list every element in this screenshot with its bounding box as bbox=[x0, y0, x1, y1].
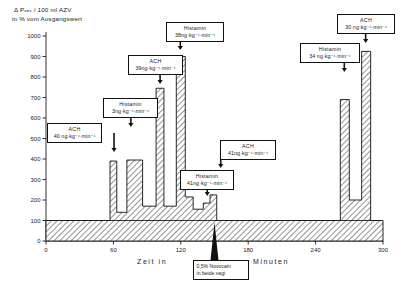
annotation-histamin-3-agent: Histamin bbox=[119, 101, 142, 107]
x-tick-label-0: 0 bbox=[44, 247, 48, 253]
annotation-arrowhead-histamin-38 bbox=[178, 46, 183, 50]
y-tick-label-900: 900 bbox=[30, 54, 41, 60]
annotation-ach-30-dose: 30 ng·kg⁻¹·min⁻¹ bbox=[340, 24, 392, 31]
annotation-ach-41-dose: 41ng·kg⁻¹·min⁻¹ bbox=[223, 150, 273, 157]
x-tick-label-300: 300 bbox=[378, 247, 389, 253]
annotation-arrowhead-histamin-3 bbox=[128, 123, 133, 127]
y-tick-label-100: 100 bbox=[30, 218, 41, 224]
x-tick-label-240: 240 bbox=[311, 247, 322, 253]
y-tick-label-200: 200 bbox=[30, 197, 41, 203]
annotation-histamin-38-dose: 38ng·kg⁻¹·min⁻¹ bbox=[169, 32, 221, 39]
annotation-ach-40-agent: ACH bbox=[69, 126, 81, 132]
y-tick-label-400: 400 bbox=[30, 156, 41, 162]
x-axis-title: Zeit in bbox=[137, 258, 167, 265]
annotation-ach-41-agent: ACH bbox=[242, 143, 254, 149]
annotation-histamin-3-dose: 3ng·kg⁻¹·min⁻¹ bbox=[106, 108, 155, 115]
annotation-histamin-38: Histamin 38ng·kg⁻¹·min⁻¹ bbox=[166, 22, 224, 42]
annotation-histamin-38-agent: Histamin bbox=[184, 25, 207, 31]
y-tick-label-0: 0 bbox=[37, 238, 41, 244]
y-tick-label-500: 500 bbox=[30, 136, 41, 142]
annotation-histamin-3: Histamin 3ng·kg⁻¹·min⁻¹ bbox=[103, 98, 158, 118]
chart-figure: Δ Pₒₑₛ / 100 ml AZV in % vom Ausgangswer… bbox=[0, 0, 402, 288]
x-tick-label-120: 120 bbox=[176, 247, 187, 253]
annotation-histamin-34-agent: Histamin bbox=[319, 46, 342, 52]
annotation-arrowhead-ach-40 bbox=[111, 148, 116, 152]
x-tick-label-60: 60 bbox=[110, 247, 117, 253]
bar-series-area bbox=[46, 51, 383, 241]
annotation-histamin-41: Histamin 41ng·kg⁻¹·min⁻¹ bbox=[180, 170, 234, 190]
x-axis-title-tail: Minuten bbox=[253, 258, 289, 265]
y-tick-label-300: 300 bbox=[30, 177, 41, 183]
annotation-ach-39-dose: 39ng·kg⁻¹·min⁻¹ bbox=[131, 65, 180, 72]
annotation-ach-40: ACH 40 ng·kg⁻¹·min⁻¹ bbox=[47, 123, 102, 143]
annotation-ach-39-agent: ACH bbox=[150, 58, 162, 64]
event-marker-line1: 0,5% Novocain bbox=[197, 263, 231, 269]
annotation-histamin-34-dose: 34 ng·kg⁻¹·min⁻¹ bbox=[303, 53, 357, 60]
annotation-ach-41: ACH 41ng·kg⁻¹·min⁻¹ bbox=[220, 140, 276, 160]
annotation-ach-30-agent: ACH bbox=[360, 17, 372, 23]
annotation-histamin-34: Histamin 34 ng·kg⁻¹·min⁻¹ bbox=[300, 43, 360, 63]
annotation-histamin-41-agent: Histamin bbox=[196, 173, 219, 179]
y-tick-label-1000: 1000 bbox=[27, 33, 41, 39]
y-tick-label-600: 600 bbox=[30, 115, 41, 121]
event-marker-line2: in beide vagi bbox=[197, 270, 247, 277]
event-marker-novocain: 0,5% Novocain in beide vagi bbox=[193, 260, 249, 280]
annotation-arrowhead-ach-39 bbox=[157, 80, 162, 84]
x-tick-label-180: 180 bbox=[243, 247, 254, 253]
annotation-arrowhead-ach-41 bbox=[218, 164, 223, 168]
annotation-ach-40-dose: 40 ng·kg⁻¹·min⁻¹ bbox=[50, 133, 99, 140]
annotation-ach-39: ACH 39ng·kg⁻¹·min⁻¹ bbox=[128, 55, 183, 75]
y-tick-label-700: 700 bbox=[30, 95, 41, 101]
annotation-ach-30: ACH 30 ng·kg⁻¹·min⁻¹ bbox=[337, 14, 395, 34]
annotation-arrowhead-ach-30 bbox=[363, 39, 368, 43]
annotation-arrowhead-histamin-34 bbox=[342, 68, 347, 72]
annotation-arrowhead-histamin-41 bbox=[205, 192, 210, 196]
annotation-histamin-41-dose: 41ng·kg⁻¹·min⁻¹ bbox=[183, 180, 231, 187]
y-tick-label-800: 800 bbox=[30, 74, 41, 80]
